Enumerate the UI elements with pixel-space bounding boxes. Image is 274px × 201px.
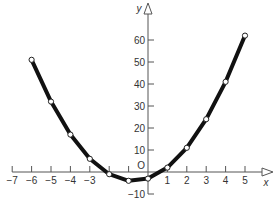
data-point-marker bbox=[29, 57, 34, 62]
origin-label: O bbox=[137, 160, 145, 171]
y-tick-label: 10 bbox=[134, 145, 146, 156]
x-tick-label: −3 bbox=[84, 175, 96, 186]
data-point-marker bbox=[184, 145, 189, 150]
chart-canvas: xy−7−6−5−4−312345−10102030405060O bbox=[0, 0, 274, 201]
x-tick-label: 4 bbox=[223, 175, 229, 186]
data-point-marker bbox=[107, 172, 112, 177]
data-point-marker bbox=[68, 132, 73, 137]
y-axis-arrow-icon bbox=[144, 3, 152, 14]
data-point-marker bbox=[165, 165, 170, 170]
x-tick-label: −4 bbox=[65, 175, 77, 186]
y-tick-label: −10 bbox=[128, 189, 145, 200]
x-tick-label: 5 bbox=[242, 175, 248, 186]
y-tick-label: 60 bbox=[134, 35, 146, 46]
y-tick-label: 20 bbox=[134, 123, 146, 134]
y-tick-label: 30 bbox=[134, 101, 146, 112]
x-tick-label: −5 bbox=[45, 175, 57, 186]
y-tick-label: 40 bbox=[134, 79, 146, 90]
x-tick-label: 3 bbox=[203, 175, 209, 186]
data-point-marker bbox=[204, 117, 209, 122]
data-point-marker bbox=[126, 178, 131, 183]
y-tick-label: 50 bbox=[134, 57, 146, 68]
x-tick-label: −7 bbox=[6, 175, 18, 186]
x-tick-label: 2 bbox=[184, 175, 190, 186]
y-axis-label: y bbox=[136, 3, 143, 14]
x-tick-label: 1 bbox=[165, 175, 171, 186]
data-point-marker bbox=[223, 79, 228, 84]
parabola-chart: xy−7−6−5−4−312345−10102030405060O bbox=[0, 0, 274, 201]
data-point-marker bbox=[242, 33, 247, 38]
x-tick-label: −6 bbox=[26, 175, 38, 186]
data-point-marker bbox=[48, 99, 53, 104]
data-point-marker bbox=[145, 176, 150, 181]
data-point-marker bbox=[87, 156, 92, 161]
x-axis-arrow-icon bbox=[262, 168, 273, 176]
x-axis-label: x bbox=[263, 177, 270, 188]
